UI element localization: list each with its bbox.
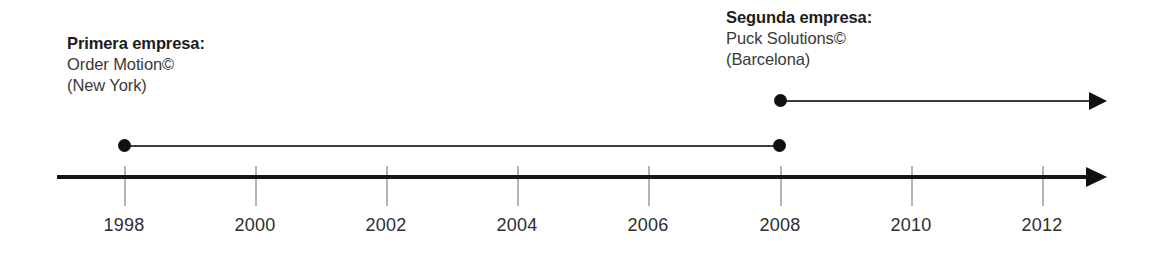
timeline-diagram: Primera empresa: Order Motion© (New York… xyxy=(0,0,1161,257)
annotation-first-company-title: Primera empresa: xyxy=(67,33,205,54)
axis-label-2006: 2006 xyxy=(628,214,669,236)
annotation-first-company-name: Order Motion© xyxy=(67,54,205,75)
annotation-second-company-name: Puck Solutions© xyxy=(726,28,872,49)
axis-label-2004: 2004 xyxy=(497,214,538,236)
axis-tick-2008 xyxy=(780,166,782,206)
event-start-dot-first-company xyxy=(118,139,131,152)
axis-tick-2012 xyxy=(1042,166,1044,206)
axis-tick-2010 xyxy=(911,166,913,206)
axis-label-2012: 2012 xyxy=(1022,214,1063,236)
axis-label-2008: 2008 xyxy=(760,214,801,236)
event-bar-second-company xyxy=(780,92,1090,110)
event-bar-first-company xyxy=(124,137,780,155)
annotation-first-company-location: (New York) xyxy=(67,75,205,96)
axis-tick-2004 xyxy=(517,166,519,206)
axis-label-2000: 2000 xyxy=(235,214,276,236)
axis-tick-2000 xyxy=(255,166,257,206)
axis-tick-2006 xyxy=(648,166,650,206)
event-start-dot-second-company xyxy=(774,94,787,107)
timeline-axis-line xyxy=(57,175,1088,179)
axis-label-1998: 1998 xyxy=(104,214,145,236)
annotation-second-company: Segunda empresa: Puck Solutions© (Barcel… xyxy=(726,7,872,70)
axis-label-2010: 2010 xyxy=(891,214,932,236)
axis-tick-1998 xyxy=(124,166,126,206)
annotation-first-company: Primera empresa: Order Motion© (New York… xyxy=(67,33,205,96)
annotation-second-company-title: Segunda empresa: xyxy=(726,7,872,28)
event-end-dot-first-company xyxy=(773,139,786,152)
event-end-arrow-icon-second-company xyxy=(1089,92,1107,110)
timeline-axis-arrow-icon xyxy=(1086,167,1107,187)
event-line-second-company xyxy=(780,100,1090,102)
annotation-second-company-location: (Barcelona) xyxy=(726,49,872,70)
axis-label-2002: 2002 xyxy=(366,214,407,236)
axis-tick-2002 xyxy=(386,166,388,206)
event-line-first-company xyxy=(124,145,780,147)
